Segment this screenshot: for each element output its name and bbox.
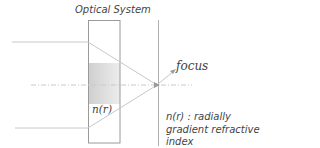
description-label: n(r) : radially gradient refractive inde… [166, 111, 260, 148]
focus-pointer-line [158, 71, 174, 84]
gradient-index-region [89, 63, 120, 104]
focus-label: focus [176, 59, 208, 73]
element-label: n(r) [92, 103, 112, 115]
diagram-title: Optical System [75, 4, 151, 15]
